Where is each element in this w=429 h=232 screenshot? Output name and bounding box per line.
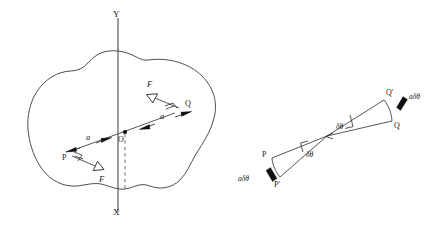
point-label-q-prime: Q'	[386, 88, 394, 97]
displacement-label-lower: aδθ	[238, 174, 249, 183]
point-label-o: O	[118, 135, 124, 144]
distance-label-right: a	[160, 111, 164, 121]
point-label-p-prime: P'	[274, 180, 280, 189]
y-axis-label: Y	[113, 9, 120, 19]
angle-label-right: δθ	[336, 122, 343, 131]
origin-dot	[123, 130, 127, 134]
force-label-upper: F	[146, 79, 153, 89]
distance-label-left: a	[86, 132, 90, 142]
force-label-lower: F	[98, 174, 105, 184]
figure-root: Y X a	[0, 0, 429, 232]
point-label-q: Q	[185, 99, 191, 108]
x-axis-label: X	[113, 207, 120, 217]
physics-figure-svg: Y X a	[0, 0, 429, 232]
point-label-p: P	[62, 153, 67, 162]
point-label-p-right: P	[262, 150, 267, 159]
point-label-q-right: Q	[394, 121, 400, 130]
angle-label-left: δθ	[306, 150, 313, 159]
displacement-label-upper: aδθ	[409, 92, 420, 101]
